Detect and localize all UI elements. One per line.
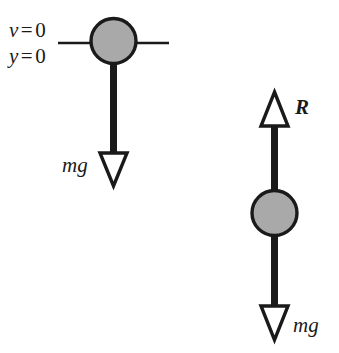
- position-annotation: y=0: [9, 46, 46, 67]
- velocity-variable: v: [9, 18, 19, 42]
- weight-arrowhead-left: [100, 153, 127, 186]
- diagram-canvas: [0, 0, 339, 353]
- velocity-value: 0: [35, 18, 46, 42]
- position-variable: y: [9, 44, 19, 68]
- position-relation: =: [19, 44, 35, 68]
- ball-right: [252, 191, 297, 236]
- reaction-arrowhead-right: [261, 92, 288, 126]
- weight-label-left: mg: [62, 155, 88, 176]
- weight-label-right: mg: [293, 315, 319, 336]
- velocity-annotation: v=0: [9, 20, 46, 41]
- physics-free-body-figure: v=0 y=0 mg R mg: [0, 0, 339, 353]
- weight-arrowhead-right: [261, 306, 288, 340]
- reaction-label-right: R: [295, 97, 309, 118]
- position-value: 0: [35, 44, 46, 68]
- velocity-relation: =: [19, 18, 35, 42]
- ball-left: [91, 19, 136, 64]
- right-diagram-group: [252, 92, 297, 340]
